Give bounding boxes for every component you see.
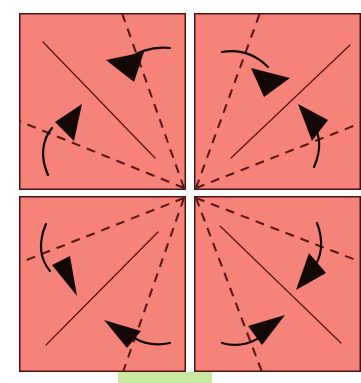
diagram-canvas: Origami fold diagram — four square panel… [0,0,361,383]
panel-bottom-right [195,197,361,372]
panel-top-right [195,14,361,190]
green-tab-layer [118,372,212,383]
green-tab [118,372,212,383]
paper-panels-layer [20,14,361,372]
origami-fold-diagram: Origami fold diagram — four square panel… [0,0,361,383]
